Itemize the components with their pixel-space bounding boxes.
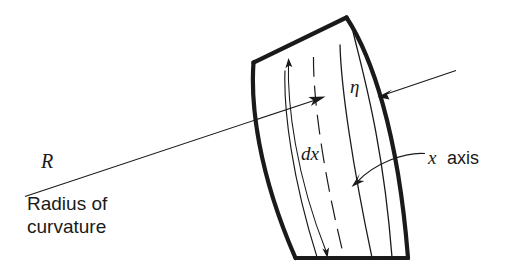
radius-caption-line-1: Radius of	[27, 192, 107, 215]
radius-of-curvature-caption: Radius of curvature	[27, 192, 107, 238]
outer-fiber-leader-arrow	[378, 71, 457, 100]
x-axis-word-label: axis	[447, 148, 479, 169]
inner-solid-curve-right	[353, 32, 392, 258]
dx-symbol-label: dx	[301, 143, 319, 165]
eta-symbol-label: η	[350, 76, 359, 98]
radius-symbol-label: R	[41, 150, 53, 173]
radius-caption-line-2: curvature	[27, 215, 107, 238]
x-axis-leader-arrow	[352, 153, 426, 187]
x-axis-symbol-label: x	[428, 147, 436, 169]
top-straight-edge	[254, 18, 347, 63]
radius-of-curvature-line	[25, 97, 326, 197]
